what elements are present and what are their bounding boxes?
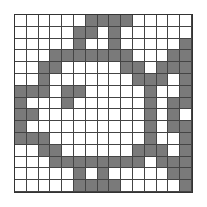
grid-cell-r8-c12[interactable] (157, 109, 169, 121)
grid-cell-r11-c9[interactable] (121, 145, 133, 157)
grid-cell-r8-c4[interactable] (62, 109, 74, 121)
grid-cell-r4-c11[interactable] (145, 62, 157, 74)
grid-cell-r6-c10[interactable] (133, 86, 145, 98)
grid-cell-r13-c5[interactable] (74, 168, 86, 180)
grid-cell-r9-c3[interactable] (50, 121, 62, 133)
grid-cell-r0-c10[interactable] (133, 15, 145, 27)
grid-cell-r10-c9[interactable] (121, 133, 133, 145)
grid-cell-r8-c1[interactable] (27, 109, 39, 121)
grid-cell-r12-c1[interactable] (27, 157, 39, 169)
grid-cell-r4-c1[interactable] (27, 62, 39, 74)
grid-cell-r8-c13[interactable] (168, 109, 180, 121)
grid-cell-r3-c12[interactable] (157, 50, 169, 62)
grid-cell-r11-c7[interactable] (98, 145, 110, 157)
grid-cell-r14-c10[interactable] (133, 180, 145, 192)
grid-cell-r5-c10[interactable] (133, 74, 145, 86)
grid-cell-r3-c9[interactable] (121, 50, 133, 62)
grid-cell-r3-c3[interactable] (50, 50, 62, 62)
grid-cell-r2-c0[interactable] (15, 39, 27, 51)
grid-cell-r2-c9[interactable] (121, 39, 133, 51)
grid-cell-r9-c5[interactable] (74, 121, 86, 133)
grid-cell-r14-c1[interactable] (27, 180, 39, 192)
grid-cell-r11-c13[interactable] (168, 145, 180, 157)
grid-cell-r10-c11[interactable] (145, 133, 157, 145)
grid-cell-r10-c7[interactable] (98, 133, 110, 145)
grid-cell-r6-c4[interactable] (62, 86, 74, 98)
grid-cell-r2-c8[interactable] (109, 39, 121, 51)
grid-cell-r3-c11[interactable] (145, 50, 157, 62)
grid-cell-r3-c5[interactable] (74, 50, 86, 62)
grid-cell-r9-c7[interactable] (98, 121, 110, 133)
grid-cell-r0-c14[interactable] (180, 15, 192, 27)
grid-cell-r2-c10[interactable] (133, 39, 145, 51)
grid-cell-r0-c11[interactable] (145, 15, 157, 27)
grid-cell-r9-c2[interactable] (39, 121, 51, 133)
grid-cell-r3-c4[interactable] (62, 50, 74, 62)
grid-cell-r14-c14[interactable] (180, 180, 192, 192)
grid-cell-r12-c6[interactable] (86, 157, 98, 169)
grid-cell-r0-c12[interactable] (157, 15, 169, 27)
grid-cell-r14-c2[interactable] (39, 180, 51, 192)
grid-cell-r4-c12[interactable] (157, 62, 169, 74)
grid-cell-r0-c2[interactable] (39, 15, 51, 27)
grid-cell-r11-c12[interactable] (157, 145, 169, 157)
grid-cell-r9-c4[interactable] (62, 121, 74, 133)
grid-cell-r5-c12[interactable] (157, 74, 169, 86)
grid-cell-r12-c4[interactable] (62, 157, 74, 169)
grid-cell-r5-c4[interactable] (62, 74, 74, 86)
grid-cell-r0-c3[interactable] (50, 15, 62, 27)
grid-cell-r10-c12[interactable] (157, 133, 169, 145)
grid-cell-r1-c6[interactable] (86, 27, 98, 39)
grid-cell-r1-c12[interactable] (157, 27, 169, 39)
grid-cell-r8-c5[interactable] (74, 109, 86, 121)
grid-cell-r5-c14[interactable] (180, 74, 192, 86)
grid-cell-r14-c5[interactable] (74, 180, 86, 192)
grid-cell-r3-c2[interactable] (39, 50, 51, 62)
grid-cell-r1-c14[interactable] (180, 27, 192, 39)
grid-cell-r11-c6[interactable] (86, 145, 98, 157)
grid-cell-r6-c13[interactable] (168, 86, 180, 98)
grid-cell-r12-c10[interactable] (133, 157, 145, 169)
grid-cell-r7-c10[interactable] (133, 98, 145, 110)
grid-cell-r3-c7[interactable] (98, 50, 110, 62)
grid-cell-r2-c13[interactable] (168, 39, 180, 51)
grid-cell-r10-c6[interactable] (86, 133, 98, 145)
grid-cell-r14-c12[interactable] (157, 180, 169, 192)
grid-cell-r7-c0[interactable] (15, 98, 27, 110)
grid-cell-r5-c2[interactable] (39, 74, 51, 86)
grid-cell-r5-c13[interactable] (168, 74, 180, 86)
grid-cell-r4-c14[interactable] (180, 62, 192, 74)
grid-cell-r9-c9[interactable] (121, 121, 133, 133)
grid-cell-r1-c11[interactable] (145, 27, 157, 39)
grid-cell-r3-c10[interactable] (133, 50, 145, 62)
grid-cell-r5-c6[interactable] (86, 74, 98, 86)
grid-cell-r0-c0[interactable] (15, 15, 27, 27)
grid-cell-r10-c0[interactable] (15, 133, 27, 145)
grid-cell-r7-c9[interactable] (121, 98, 133, 110)
grid-cell-r4-c9[interactable] (121, 62, 133, 74)
grid-cell-r12-c0[interactable] (15, 157, 27, 169)
grid-cell-r11-c1[interactable] (27, 145, 39, 157)
grid-cell-r4-c5[interactable] (74, 62, 86, 74)
grid-cell-r8-c2[interactable] (39, 109, 51, 121)
grid-cell-r1-c0[interactable] (15, 27, 27, 39)
grid-cell-r12-c8[interactable] (109, 157, 121, 169)
grid-cell-r10-c4[interactable] (62, 133, 74, 145)
grid-cell-r2-c1[interactable] (27, 39, 39, 51)
grid-cell-r1-c13[interactable] (168, 27, 180, 39)
grid-cell-r9-c11[interactable] (145, 121, 157, 133)
grid-cell-r5-c3[interactable] (50, 74, 62, 86)
grid-cell-r11-c10[interactable] (133, 145, 145, 157)
grid-cell-r8-c3[interactable] (50, 109, 62, 121)
grid-cell-r9-c0[interactable] (15, 121, 27, 133)
grid-cell-r8-c0[interactable] (15, 109, 27, 121)
grid-cell-r5-c1[interactable] (27, 74, 39, 86)
grid-cell-r6-c3[interactable] (50, 86, 62, 98)
grid-cell-r2-c11[interactable] (145, 39, 157, 51)
grid-cell-r5-c9[interactable] (121, 74, 133, 86)
grid-cell-r5-c5[interactable] (74, 74, 86, 86)
grid-cell-r4-c8[interactable] (109, 62, 121, 74)
grid-cell-r1-c3[interactable] (50, 27, 62, 39)
grid-cell-r11-c11[interactable] (145, 145, 157, 157)
grid-cell-r14-c6[interactable] (86, 180, 98, 192)
